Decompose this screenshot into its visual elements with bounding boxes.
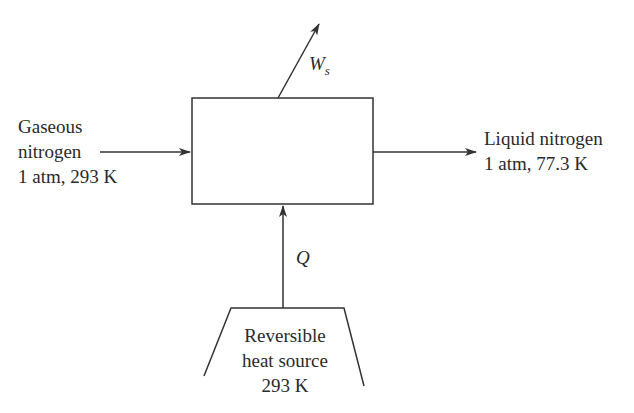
outlet-label-line-1: Liquid nitrogen [484,128,603,149]
process-box [192,98,373,204]
source-label-line-1: Reversible [244,325,325,346]
source-label-line-2: heat source [242,350,328,371]
work-label: Ws [309,53,330,78]
liquefaction-diagram: Gaseous nitrogen 1 atm, 293 K Liquid nit… [0,0,634,413]
inlet-label-line-3: 1 atm, 293 K [18,166,117,187]
inlet-label-line-2: nitrogen [18,141,82,162]
inlet-label-line-1: Gaseous [18,116,82,137]
outlet-label-line-2: 1 atm, 77.3 K [484,153,588,174]
source-label-line-3: 293 K [262,375,309,396]
work-subscript: s [325,63,330,78]
heat-label: Q [296,247,310,268]
